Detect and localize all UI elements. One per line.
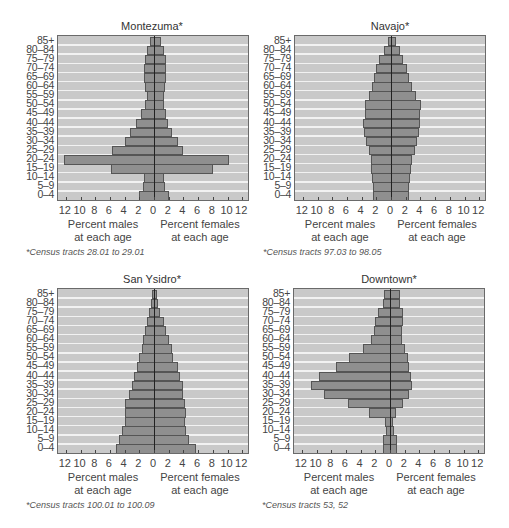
x-tick [419, 450, 420, 453]
male-axis-title: Percent malesat each age [48, 218, 158, 244]
zero-axis-line [391, 36, 392, 200]
x-tick-label: 10 [309, 457, 321, 469]
x-tick-label: 8 [328, 204, 334, 216]
x-tick-label: 4 [179, 457, 185, 469]
male-bar [116, 444, 155, 454]
female-axis-title: Percent femalesat each age [381, 471, 491, 497]
x-tick [376, 197, 377, 200]
x-tick [198, 450, 199, 453]
x-tick [66, 197, 67, 200]
plot-area [293, 288, 485, 454]
x-tick [125, 197, 126, 200]
x-tick-label: 4 [416, 204, 422, 216]
chart-title: Navajo* [371, 20, 410, 32]
x-tick-label: 6 [194, 204, 200, 216]
male-axis-title-line2: at each age [48, 231, 158, 244]
male-axis-title-line1: Percent males [285, 218, 395, 231]
female-axis-title-line2: at each age [145, 231, 255, 244]
x-tick-label: 4 [357, 457, 363, 469]
x-tick-label: 12 [296, 204, 308, 216]
x-tick-label: 0 [150, 457, 156, 469]
x-tick [169, 197, 170, 200]
x-tick [375, 450, 376, 453]
x-tick [213, 197, 214, 200]
x-tick-label: 6 [430, 457, 436, 469]
age-group-label: 0–4 [240, 443, 290, 452]
x-tick [154, 450, 155, 453]
x-tick-label: 6 [342, 457, 348, 469]
x-tick [110, 450, 111, 453]
x-tick-label: 2 [402, 204, 408, 216]
male-axis-title-line2: at each age [284, 484, 394, 497]
x-tick [464, 450, 465, 453]
x-tick [95, 450, 96, 453]
chart-title: San Ysidro* [123, 273, 181, 285]
zero-axis-line [154, 289, 155, 453]
x-tick-label: 6 [431, 204, 437, 216]
x-tick-label: 4 [121, 457, 127, 469]
female-axis-title-line1: Percent females [381, 471, 491, 484]
x-tick-label: 2 [401, 457, 407, 469]
x-tick-label: 2 [135, 204, 141, 216]
x-tick-label: 12 [471, 457, 483, 469]
x-tick-label: 0 [150, 204, 156, 216]
male-axis-title-line1: Percent males [284, 471, 394, 484]
x-tick-label: 12 [235, 457, 247, 469]
female-axis-title: Percent femalesat each age [145, 471, 255, 497]
x-tick-label: 10 [73, 457, 85, 469]
x-tick [434, 450, 435, 453]
x-tick [347, 197, 348, 200]
x-tick-label: 4 [415, 457, 421, 469]
x-tick [361, 450, 362, 453]
x-tick [346, 450, 347, 453]
male-axis-title: Percent malesat each age [285, 218, 395, 244]
x-tick-label: 8 [446, 204, 452, 216]
x-tick-label: 10 [220, 457, 232, 469]
female-axis-title-line2: at each age [381, 484, 491, 497]
x-tick [228, 197, 229, 200]
male-axis-title-line2: at each age [48, 484, 158, 497]
x-tick [81, 197, 82, 200]
x-tick [302, 450, 303, 453]
female-axis-title-line2: at each age [145, 484, 255, 497]
x-tick-label: 10 [310, 204, 322, 216]
x-tick-label: 0 [386, 457, 392, 469]
plot-area [57, 35, 249, 201]
x-tick [332, 197, 333, 200]
x-tick-label: 6 [106, 457, 112, 469]
x-tick [81, 450, 82, 453]
male-axis-title-line1: Percent males [48, 471, 158, 484]
x-tick-label: 2 [372, 204, 378, 216]
male-axis-title-line1: Percent males [48, 218, 158, 231]
x-tick [406, 197, 407, 200]
x-tick [449, 450, 450, 453]
x-tick [362, 197, 363, 200]
plot-area [294, 35, 486, 201]
x-tick-label: 12 [295, 457, 307, 469]
x-tick-label: 8 [209, 457, 215, 469]
x-tick-label: 8 [91, 204, 97, 216]
male-axis-title-line2: at each age [285, 231, 395, 244]
female-axis-title: Percent femalesat each age [145, 218, 255, 244]
female-axis-title-line1: Percent females [145, 218, 255, 231]
x-tick [331, 450, 332, 453]
x-tick [479, 197, 480, 200]
x-tick [183, 450, 184, 453]
x-tick-label: 2 [165, 457, 171, 469]
census-tract-footnote: *Census tracts 97.03 to 98.05 [263, 247, 382, 257]
x-tick-label: 10 [73, 204, 85, 216]
x-tick [95, 197, 96, 200]
x-tick [66, 450, 67, 453]
x-tick-label: 2 [165, 204, 171, 216]
x-tick-label: 8 [445, 457, 451, 469]
male-axis-title: Percent malesat each age [48, 471, 158, 497]
x-tick [213, 450, 214, 453]
x-tick [303, 197, 304, 200]
x-tick [317, 450, 318, 453]
x-tick-label: 4 [121, 204, 127, 216]
x-tick [450, 197, 451, 200]
x-tick-label: 12 [59, 457, 71, 469]
chart-title: Montezuma* [121, 20, 183, 32]
female-axis-title-line1: Percent females [145, 471, 255, 484]
x-tick-label: 4 [358, 204, 364, 216]
